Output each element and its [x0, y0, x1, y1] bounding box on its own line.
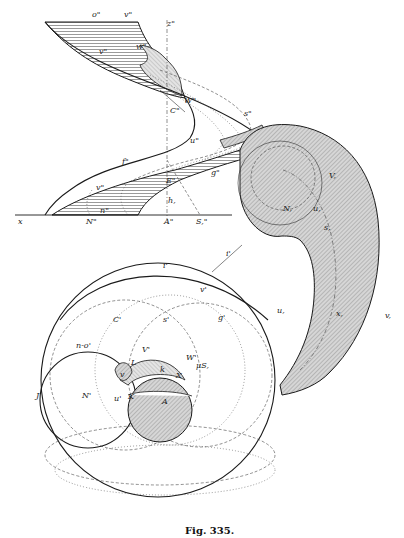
- label-s2: s": [244, 109, 252, 118]
- label-J: J: [34, 391, 40, 400]
- label-C2: C": [170, 106, 180, 115]
- label-A2: A": [163, 217, 173, 226]
- label-h1: h,: [168, 196, 176, 205]
- label-A: A: [161, 397, 168, 406]
- label-N1: N,: [282, 204, 292, 213]
- label-N1p: N': [81, 391, 91, 400]
- label-W1: W': [186, 353, 196, 362]
- figure-caption: Fig. 335.: [185, 525, 234, 536]
- label-i1: i': [226, 249, 231, 258]
- label-K: K: [127, 392, 135, 401]
- label-E2: E": [165, 176, 176, 185]
- label-v1: v,: [385, 311, 391, 320]
- label-i-top: i': [163, 261, 168, 270]
- label-o2: o": [92, 10, 101, 19]
- label-u2: u": [190, 136, 199, 145]
- label-f2: f": [121, 157, 129, 166]
- ellipse-dashed-2: [55, 445, 275, 495]
- label-v-left: v: [120, 370, 125, 379]
- label-u1: u,: [313, 204, 321, 213]
- label-u1p: u': [114, 394, 121, 403]
- label-N2: N": [85, 217, 97, 226]
- label-x1: x,: [336, 309, 343, 318]
- label-v2-low: v": [96, 183, 104, 192]
- label-muS: μS,: [196, 361, 209, 370]
- label-u-outer: u,: [277, 306, 285, 315]
- label-g2: g": [211, 168, 220, 177]
- label-V1: V,: [329, 171, 336, 180]
- label-v2-mid: v": [99, 47, 107, 56]
- label-S2: S,": [196, 217, 207, 226]
- label-L: L: [130, 358, 136, 367]
- label-no1: n-o': [76, 341, 91, 350]
- label-X: X: [175, 371, 182, 380]
- label-x-left: x: [18, 217, 23, 226]
- label-z2: z": [166, 19, 175, 28]
- label-W2: W": [184, 96, 196, 105]
- label-v-top: v': [200, 285, 207, 294]
- plan-view: [40, 263, 275, 497]
- label-s1p: s': [163, 315, 169, 324]
- label-k: k: [160, 365, 165, 374]
- label-s1: s,: [324, 223, 331, 232]
- spiral-band: [240, 125, 379, 395]
- label-V1p: V': [142, 345, 150, 354]
- label-w2: w": [136, 42, 147, 51]
- label-g1: g': [218, 313, 225, 322]
- descriptive-geometry-figure: o" v" z" v" w" W" C" u" s" f" v" E" g" h…: [0, 0, 404, 538]
- label-C1: C': [113, 315, 121, 324]
- label-v2-top: v": [124, 10, 132, 19]
- shaded-circle-A: [128, 378, 192, 442]
- label-n2: n": [100, 206, 109, 215]
- spiral-band-view: [212, 125, 379, 395]
